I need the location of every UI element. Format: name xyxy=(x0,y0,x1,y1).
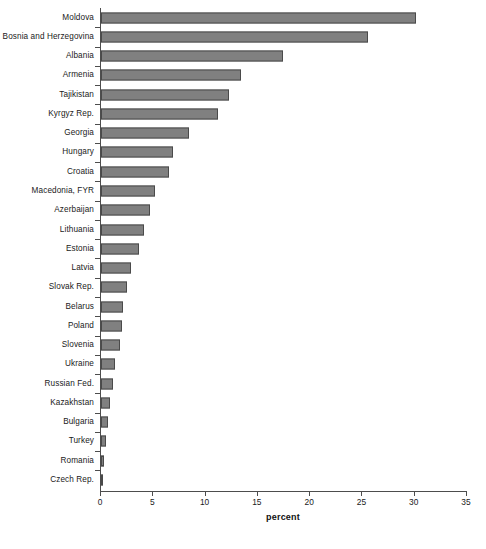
bar-category-label: Estonia xyxy=(66,245,94,253)
bar-row: Romania xyxy=(0,451,486,470)
x-axis-tick-mark xyxy=(205,491,206,496)
bar-category-label: Latvia xyxy=(72,264,94,272)
bar-category-label: Armenia xyxy=(63,71,94,79)
bar-category-label: Slovenia xyxy=(62,341,94,349)
bar-category-label: Belarus xyxy=(66,303,94,311)
bar-row: Tajikistan xyxy=(0,85,486,104)
x-axis-tick-mark xyxy=(257,491,258,496)
bar-category-label: Poland xyxy=(68,322,94,330)
bar-row: Slovenia xyxy=(0,336,486,355)
bar xyxy=(101,359,115,370)
bar xyxy=(101,320,122,331)
bar-category-label: Slovak Rep. xyxy=(49,283,94,291)
bar-row: Russian Fed. xyxy=(0,374,486,393)
x-axis-title: percent xyxy=(0,512,486,522)
bar-row: Bosnia and Herzegovina xyxy=(0,27,486,46)
bar xyxy=(101,186,155,197)
bar-category-label: Albania xyxy=(66,52,94,60)
bar-chart: MoldovaBosnia and HerzegovinaAlbaniaArme… xyxy=(0,0,486,549)
bar xyxy=(101,378,113,389)
bar-category-label: Bulgaria xyxy=(63,418,94,426)
x-axis-tick-label: 10 xyxy=(200,498,209,506)
bar xyxy=(101,417,108,428)
bar-row: Czech Rep. xyxy=(0,470,486,489)
bar xyxy=(101,224,144,235)
bar-row: Armenia xyxy=(0,66,486,85)
bar-category-label: Kazakhstan xyxy=(50,399,94,407)
x-axis-tick-label: 15 xyxy=(252,498,261,506)
bar xyxy=(101,70,241,81)
x-axis-tick-mark xyxy=(309,491,310,496)
bar-row: Macedonia, FYR xyxy=(0,181,486,200)
bar xyxy=(101,108,218,119)
bar-row: Lithuania xyxy=(0,220,486,239)
bar-row: Croatia xyxy=(0,162,486,181)
bar xyxy=(101,205,150,216)
bar-rows: MoldovaBosnia and HerzegovinaAlbaniaArme… xyxy=(0,8,486,490)
bar-row: Slovak Rep. xyxy=(0,278,486,297)
bar xyxy=(101,436,106,447)
bar-row: Latvia xyxy=(0,258,486,277)
bar-category-label: Turkey xyxy=(69,437,94,445)
bar-row: Estonia xyxy=(0,239,486,258)
bar-category-label: Croatia xyxy=(67,168,94,176)
x-axis-title-text: percent xyxy=(266,512,300,522)
bar-category-label: Tajikistan xyxy=(59,91,94,99)
bar-row: Turkey xyxy=(0,432,486,451)
bar xyxy=(101,263,131,274)
bar xyxy=(101,147,173,158)
x-axis-tick-mark xyxy=(414,491,415,496)
bar-category-label: Macedonia, FYR xyxy=(32,187,94,195)
bar-category-label: Azerbaijan xyxy=(54,206,94,214)
bar-category-label: Moldova xyxy=(62,14,94,22)
bar-row: Albania xyxy=(0,47,486,66)
bar xyxy=(101,282,127,293)
x-axis-tick-mark xyxy=(361,491,362,496)
bar-category-label: Georgia xyxy=(64,129,94,137)
bar xyxy=(101,166,169,177)
x-axis-tick-mark xyxy=(100,491,101,496)
bar-category-label: Russian Fed. xyxy=(45,380,94,388)
bar-row: Azerbaijan xyxy=(0,201,486,220)
bar xyxy=(101,243,139,254)
bar xyxy=(101,340,120,351)
bar-row: Hungary xyxy=(0,143,486,162)
bar xyxy=(101,301,123,312)
bar-row: Belarus xyxy=(0,297,486,316)
bar-category-label: Ukraine xyxy=(65,360,94,368)
bar xyxy=(101,12,416,23)
bar-category-label: Lithuania xyxy=(60,225,94,233)
bar xyxy=(101,455,104,466)
bar-row: Poland xyxy=(0,316,486,335)
bar-row: Georgia xyxy=(0,124,486,143)
bar-category-label: Hungary xyxy=(62,148,94,156)
bar xyxy=(101,397,110,408)
x-axis-tick-label: 25 xyxy=(357,498,366,506)
bar xyxy=(101,31,368,42)
bar xyxy=(101,128,189,139)
bar-category-label: Czech Rep. xyxy=(50,476,94,484)
bar-row: Kyrgyz Rep. xyxy=(0,104,486,123)
x-axis-tick-mark xyxy=(466,491,467,496)
bar-category-label: Kyrgyz Rep. xyxy=(48,110,94,118)
bar xyxy=(101,475,103,486)
bar xyxy=(101,51,283,62)
x-axis-tick-label: 5 xyxy=(150,498,155,506)
bar-category-label: Romania xyxy=(61,457,94,465)
bar-row: Kazakhstan xyxy=(0,393,486,412)
bar xyxy=(101,89,229,100)
x-axis-tick-label: 35 xyxy=(461,498,470,506)
x-axis-tick-mark xyxy=(152,491,153,496)
bar-row: Moldova xyxy=(0,8,486,27)
x-axis-tick-label: 30 xyxy=(409,498,418,506)
x-axis-tick-label: 20 xyxy=(304,498,313,506)
x-axis-tick-label: 0 xyxy=(98,498,103,506)
bar-category-label: Bosnia and Herzegovina xyxy=(3,33,94,41)
bar-row: Bulgaria xyxy=(0,413,486,432)
bar-row: Ukraine xyxy=(0,355,486,374)
